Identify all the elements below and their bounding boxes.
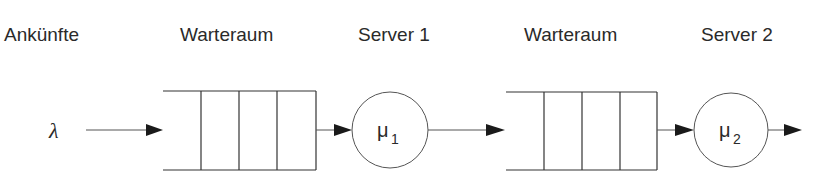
label-server-1: Server 1 [358,24,430,45]
tandem-queue-diagram: Ankünfte Warteraum Server 1 Warteraum Se… [0,0,830,177]
arrow-server-1-to-queue-2 [428,124,505,136]
arrow-queue-2-to-server-2 [657,124,694,136]
queue-1 [163,91,316,170]
server-1: μ 1 [352,92,428,168]
arrow-server-2-departure [768,124,802,136]
label-arrivals: Ankünfte [4,24,79,45]
server-2: μ 2 [694,93,768,167]
arrow-queue-1-to-server-1 [316,124,352,136]
server-1-rate-index: 1 [391,131,399,147]
server-2-rate-index: 2 [733,131,741,147]
server-2-rate-mu: μ [719,119,731,141]
label-queue-2: Warteraum [524,24,617,45]
label-queue-1: Warteraum [180,24,273,45]
label-server-2: Server 2 [701,24,773,45]
server-1-rate-mu: μ [377,119,389,141]
arrow-arrivals-to-queue-1 [86,124,163,136]
arrival-rate-lambda: λ [48,118,59,143]
queue-2 [506,92,657,170]
